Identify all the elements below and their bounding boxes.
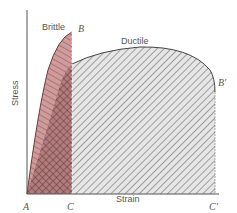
stress-strain-diagram: Brittle B Ductile B′ A C C′ Strain Stres… (0, 0, 237, 213)
ductile-label: Ductile (121, 36, 149, 46)
point-c-prime-label: C′ (209, 201, 219, 212)
point-c-label: C (67, 201, 74, 212)
y-axis-label: Stress (10, 80, 20, 106)
point-a-label: A (22, 201, 30, 212)
point-b-label: B (78, 23, 84, 34)
point-b-prime-label: B′ (218, 77, 227, 88)
x-axis-label: Strain (116, 194, 140, 204)
brittle-label: Brittle (42, 22, 65, 32)
